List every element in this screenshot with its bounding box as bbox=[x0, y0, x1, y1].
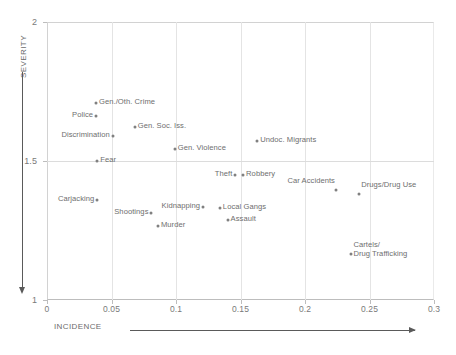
data-point-label: Fear bbox=[100, 155, 116, 165]
data-point[interactable] bbox=[358, 193, 361, 196]
data-point-label: Robbery bbox=[246, 169, 275, 179]
data-point[interactable] bbox=[256, 139, 259, 142]
y-tick-label: 2 bbox=[32, 17, 37, 27]
data-point-label: Drugs/Drug Use bbox=[361, 180, 416, 190]
data-point[interactable] bbox=[95, 114, 98, 117]
data-point[interactable] bbox=[133, 126, 136, 129]
data-point-label: Gen./Oth. Crime bbox=[99, 97, 155, 107]
data-point[interactable] bbox=[334, 188, 337, 191]
scatter-chart-figure: 00.050.10.150.20.250.311.52Gen./Oth. Cri… bbox=[0, 0, 456, 355]
data-point[interactable] bbox=[202, 205, 205, 208]
data-point-label: Gen. Violence bbox=[178, 143, 226, 153]
data-point[interactable] bbox=[96, 160, 99, 163]
data-point-label: Gen. Soc. Iss. bbox=[138, 121, 186, 131]
data-point-label: Discrimination bbox=[61, 130, 109, 140]
data-point[interactable] bbox=[95, 102, 98, 105]
data-point-label: Carjacking bbox=[58, 194, 94, 204]
x-tick-label: 0.25 bbox=[361, 304, 378, 314]
x-tick-label: 0.1 bbox=[170, 304, 182, 314]
data-point[interactable] bbox=[242, 173, 245, 176]
data-point-label: Theft bbox=[215, 169, 233, 179]
data-point-label: Car Accidents bbox=[287, 176, 335, 186]
data-point[interactable] bbox=[226, 218, 229, 221]
data-point-label: Murder bbox=[161, 220, 185, 230]
y-tick-mark bbox=[43, 161, 47, 162]
x-tick-label: 0.2 bbox=[299, 304, 311, 314]
y-axis-arrow-icon bbox=[22, 72, 23, 287]
data-point[interactable] bbox=[173, 148, 176, 151]
data-point-label: Shootings bbox=[114, 207, 148, 217]
data-point[interactable] bbox=[150, 211, 153, 214]
data-point-label: Assault bbox=[231, 214, 256, 224]
data-point-label: Undoc. Migrants bbox=[260, 135, 316, 145]
data-point[interactable] bbox=[218, 206, 221, 209]
data-point[interactable] bbox=[111, 134, 114, 137]
data-point[interactable] bbox=[96, 198, 99, 201]
data-point[interactable] bbox=[234, 173, 237, 176]
x-axis-title: INCIDENCE bbox=[54, 322, 102, 331]
y-tick-label: 1 bbox=[32, 295, 37, 305]
data-point-label: Local Gangs bbox=[223, 202, 266, 212]
data-point-label: Kidnapping bbox=[162, 201, 201, 211]
y-axis-title: SEVERITY bbox=[19, 27, 28, 87]
y-tick-mark bbox=[43, 22, 47, 23]
x-tick-label: 0.15 bbox=[232, 304, 249, 314]
data-point-label: Cartels/ Drug Trafficking bbox=[353, 240, 407, 259]
x-axis-arrow-icon bbox=[130, 330, 415, 331]
y-tick-label: 1.5 bbox=[24, 156, 37, 166]
x-tick-label: 0.05 bbox=[103, 304, 120, 314]
data-point-label: Police bbox=[72, 110, 93, 120]
x-tick-label: 0.3 bbox=[428, 304, 440, 314]
x-tick-label: 0 bbox=[45, 304, 50, 314]
data-point[interactable] bbox=[156, 225, 159, 228]
y-tick-mark bbox=[43, 300, 47, 301]
